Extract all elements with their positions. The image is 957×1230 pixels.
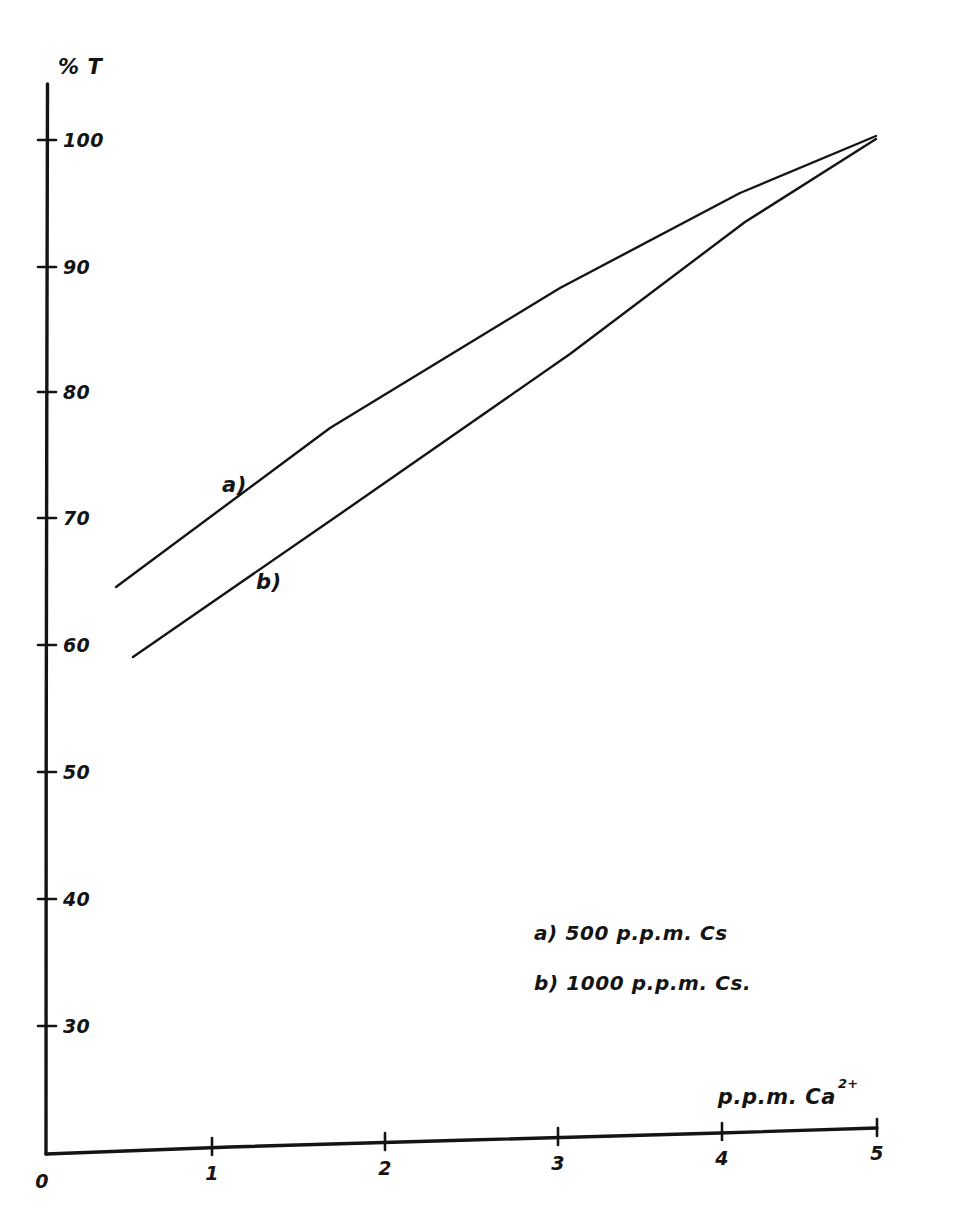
y-tick-label-30: 30 xyxy=(63,1015,90,1037)
x-tick-label-1: 1 xyxy=(205,1162,219,1184)
legend-entry-a: a) 500 p.p.m. Cs xyxy=(534,921,728,945)
x-tick-label-5: 5 xyxy=(870,1142,884,1164)
x-tick-label-3: 3 xyxy=(551,1152,565,1174)
y-tick-label-50: 50 xyxy=(63,761,90,783)
y-tick-label-60: 60 xyxy=(63,634,90,656)
y-tick-label-40: 40 xyxy=(62,888,90,910)
x-axis-title-superscript: 2+ xyxy=(838,1076,859,1091)
y-axis-line xyxy=(46,84,48,1154)
y-tick-label-90: 90 xyxy=(63,256,90,278)
y-tick-label-70: 70 xyxy=(63,507,90,529)
y-axis-title: % T xyxy=(58,55,104,79)
x-tick-label-4: 4 xyxy=(714,1147,729,1169)
x-tick-label-2: 2 xyxy=(378,1157,392,1179)
x-tick-label-0: 0 xyxy=(35,1170,49,1192)
y-tick-label-100: 100 xyxy=(63,129,104,151)
x-axis-title: p.p.m. Ca xyxy=(717,1085,836,1109)
y-tick-label-80: 80 xyxy=(63,381,90,403)
legend-entry-b: b) 1000 p.p.m. Cs. xyxy=(534,971,751,995)
paper-background xyxy=(0,0,957,1230)
handdrawn-chart-canvas: % T 100 90 80 70 60 50 40 30 xyxy=(0,0,957,1230)
curve-tag-a: a) xyxy=(222,473,247,497)
chart-figure: % T 100 90 80 70 60 50 40 30 xyxy=(0,0,957,1230)
curve-tag-b: b) xyxy=(256,570,282,594)
